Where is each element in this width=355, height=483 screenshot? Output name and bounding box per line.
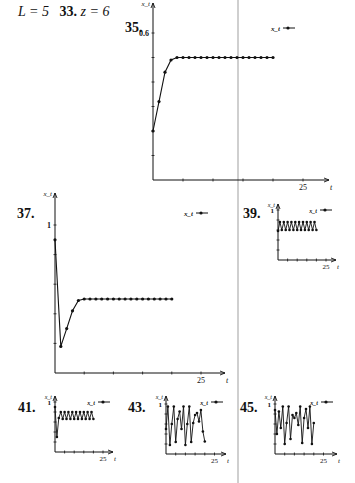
svg-text:x_t: x_t (183, 210, 194, 218)
x-axis-label: t (226, 376, 229, 385)
chart-45-label: 45. (240, 400, 258, 416)
chart-43-label: 43. (128, 400, 146, 416)
x-axis-label: t (114, 455, 117, 463)
x-tick-label: 25 (197, 376, 205, 385)
x-axis-label: t (227, 457, 230, 465)
item-33-equation: z = 6 (80, 4, 109, 19)
y-axis-arrow-icon (53, 396, 57, 401)
prefix-equation: L = 5 (18, 4, 49, 19)
chart-45: 125tx_tx_t (0, 0, 355, 483)
y-tick-label: 1 (159, 401, 163, 409)
y-axis-label: x_t (264, 394, 273, 400)
x-axis-arrow-icon (331, 258, 336, 262)
svg-text:x_t: x_t (86, 400, 95, 406)
series-line (55, 407, 93, 437)
x-tick-label: 25 (299, 183, 307, 192)
y-axis-label: x_t (44, 394, 53, 400)
chart-35-label: 35. (125, 20, 143, 36)
svg-text:x_t: x_t (309, 400, 318, 406)
x-axis-arrow-icon (332, 452, 337, 456)
y-tick-label: 1 (48, 399, 52, 407)
legend: x_t (183, 210, 208, 218)
y-tick-label: 1 (47, 221, 51, 230)
svg-text:x_t: x_t (308, 208, 317, 214)
legend: x_t (270, 25, 295, 33)
series-markers (151, 56, 274, 133)
y-tick-label: 1 (268, 401, 272, 409)
x-tick-label: 25 (100, 455, 108, 463)
y-axis-arrow-icon (151, 3, 155, 8)
series-markers (54, 406, 95, 439)
x-tick-label: 25 (320, 457, 328, 465)
axes (276, 204, 336, 262)
legend-marker-icon (286, 26, 289, 29)
series-line (278, 222, 316, 231)
legend-marker-icon (324, 400, 327, 403)
y-axis-label: x_t (140, 0, 151, 8)
svg-text:x_t: x_t (199, 400, 208, 406)
chart-35: 0.625tx_tx_t (0, 0, 355, 483)
axes (53, 193, 225, 375)
chart-41-label: 41. (18, 400, 36, 416)
header-line: L = 5 33. z = 6 (18, 4, 116, 20)
x-axis-arrow-icon (324, 178, 329, 182)
legend: x_t (308, 208, 332, 214)
y-axis-arrow-icon (164, 396, 168, 401)
x-axis-arrow-icon (221, 452, 226, 456)
legend-marker-icon (323, 208, 326, 211)
y-axis-arrow-icon (273, 396, 277, 401)
chart-37-label: 37. (17, 206, 35, 222)
y-axis-arrow-icon (53, 193, 57, 198)
x-tick-label: 25 (211, 457, 219, 465)
svg-text:x_t: x_t (270, 25, 281, 33)
column-divider (237, 0, 239, 483)
x-axis-label: t (337, 263, 340, 271)
axes (151, 3, 329, 182)
y-axis-label: x_t (42, 190, 53, 198)
x-tick-label: 25 (323, 263, 331, 271)
legend-marker-icon (101, 400, 104, 403)
y-axis-arrow-icon (276, 204, 280, 209)
legend: x_t (86, 400, 110, 406)
legend-marker-icon (199, 211, 202, 214)
x-axis-arrow-icon (108, 450, 113, 454)
x-axis-label: t (330, 183, 333, 192)
axes (273, 396, 337, 456)
axes (53, 396, 113, 454)
series-line (153, 58, 273, 132)
x-axis-arrow-icon (220, 371, 225, 375)
legend: x_t (199, 400, 223, 406)
series-line (55, 240, 172, 347)
chart-39-label: 39. (243, 206, 261, 222)
series-markers (165, 405, 206, 446)
series-line (166, 407, 205, 446)
legend: x_t (309, 400, 333, 406)
series-line (275, 407, 314, 445)
y-axis-label: x_t (155, 394, 164, 400)
series-markers (274, 405, 315, 445)
chart-39: 125tx_tx_t (0, 0, 355, 483)
legend-marker-icon (214, 400, 217, 403)
y-axis-label: x_t (267, 202, 276, 208)
chart-43: 125tx_tx_t (0, 0, 355, 483)
series-markers (277, 221, 318, 233)
chart-41: 125tx_tx_t (0, 0, 355, 483)
axes (164, 396, 226, 456)
y-tick-label: 1 (271, 207, 275, 215)
item-33-label: 33. (59, 4, 77, 19)
series-markers (53, 238, 173, 348)
x-axis-label: t (338, 457, 341, 465)
chart-37: 125tx_tx_t (0, 0, 355, 483)
